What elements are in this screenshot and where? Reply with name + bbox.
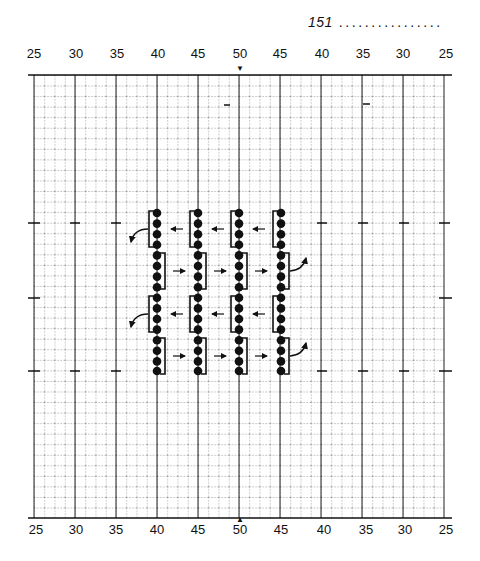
bottom-scale: 25 30 35 40 45 50 45 40 35 30 25 xyxy=(0,522,480,540)
scale-label: 40 xyxy=(150,522,164,537)
scale-label: 45 xyxy=(191,522,205,537)
scale-label: 30 xyxy=(69,522,83,537)
scale-label: 25 xyxy=(29,522,43,537)
chart-grid xyxy=(0,0,480,561)
scale-label: 35 xyxy=(359,522,373,537)
scale-label: 25 xyxy=(439,522,453,537)
scale-label: 40 xyxy=(317,522,331,537)
scale-label: 50 xyxy=(233,522,247,537)
scale-label: 30 xyxy=(398,522,412,537)
scale-label: 35 xyxy=(109,522,123,537)
scale-label: 45 xyxy=(274,522,288,537)
